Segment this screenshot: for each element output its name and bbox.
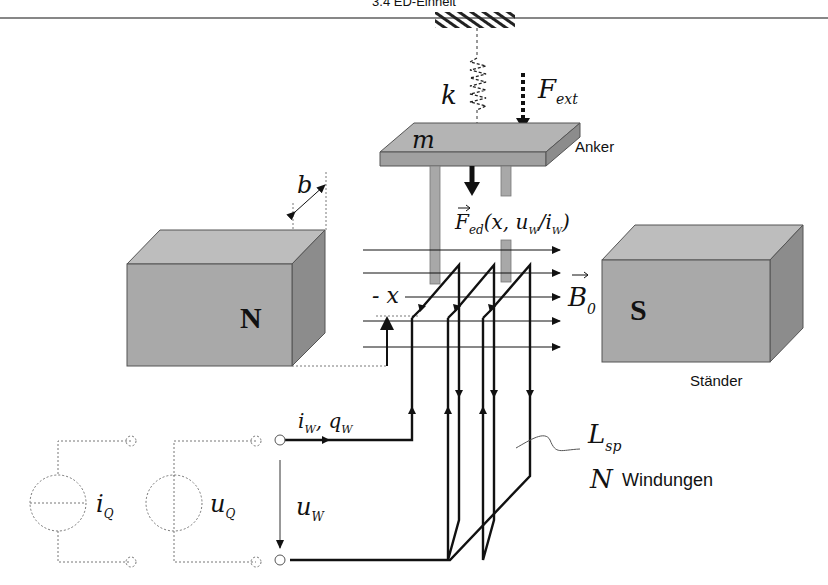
voltage-source-label: uQ: [210, 490, 235, 521]
terminal-bottom[interactable]: [275, 555, 285, 565]
coil-current-arrows: [322, 304, 534, 444]
mass-label: m: [412, 126, 435, 154]
diagram-canvas: 3.4 ED-Einheit k Fext m Anker Fed(x, uW/…: [0, 0, 828, 585]
turns-label: Windungen: [622, 470, 713, 490]
page-header: 3.4 ED-Einheit: [0, 0, 828, 28]
coil-current-label: iW, qW: [298, 409, 354, 436]
spring: [470, 28, 486, 135]
ceiling-hatch: [435, 12, 515, 28]
armature-rod-right-top: [501, 166, 511, 196]
armature-rod-right-bottom: [501, 240, 511, 282]
header-title: 3.4 ED-Einheit: [372, 0, 456, 9]
spring-constant-label: k: [441, 80, 457, 110]
north-magnet: [127, 230, 325, 366]
stator-label: Ständer: [690, 372, 743, 389]
electrodynamic-force-label: Fed(x, uW/iW): [454, 210, 570, 237]
inductance-label: Lsp: [587, 419, 621, 454]
turns-symbol: N: [589, 464, 614, 494]
voltage-source[interactable]: [146, 436, 261, 567]
electrodynamic-force-arrow: [464, 166, 480, 196]
inductance-pointer: [516, 436, 580, 451]
armature: [380, 123, 580, 166]
external-force-label: Fext: [537, 74, 578, 107]
width-label: b: [297, 171, 312, 199]
armature-rod-left: [430, 166, 440, 284]
armature-label: Anker: [575, 138, 614, 155]
external-force-arrow: [516, 73, 530, 130]
coil-voltage-label: uW: [296, 493, 325, 524]
terminal-top[interactable]: [275, 435, 285, 445]
current-source[interactable]: [30, 436, 136, 567]
field-label: B0: [567, 282, 596, 317]
south-pole-label: S: [630, 293, 647, 326]
position-label: - x: [372, 283, 399, 308]
north-pole-label: N: [240, 301, 262, 334]
current-source-label: iQ: [96, 490, 114, 521]
